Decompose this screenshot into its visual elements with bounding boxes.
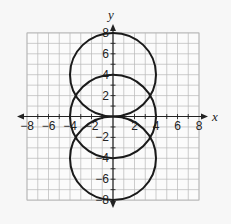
y-axis-up-arrow-icon	[110, 24, 116, 31]
coordinate-plane: −8−6−4−224688642−2−4−6−8 x y	[0, 0, 231, 224]
x-tick-label: −8	[20, 119, 34, 133]
x-tick-label: 8	[196, 119, 203, 133]
x-tick-label: 6	[174, 119, 181, 133]
y-axis-label: y	[106, 7, 114, 22]
x-axis-label: x	[211, 109, 218, 124]
y-tick-label: 2	[102, 89, 109, 103]
y-axis-down-arrow-icon	[110, 201, 116, 208]
y-tick-label: −6	[95, 172, 109, 186]
y-tick-label: −2	[95, 130, 109, 144]
y-tick-label: 6	[102, 47, 109, 61]
x-tick-label: −6	[42, 119, 56, 133]
